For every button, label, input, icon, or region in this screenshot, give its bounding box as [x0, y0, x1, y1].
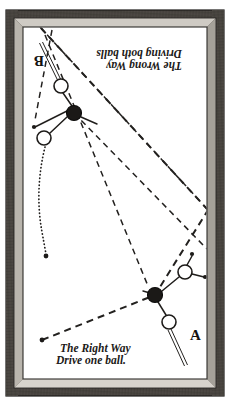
label-b: B	[34, 53, 44, 69]
diagram-canvas: A B The Right Way Drive one ball. The Wr…	[0, 0, 230, 405]
endpoint-b-red-left	[32, 125, 36, 129]
cloth-area	[23, 27, 207, 379]
ball-b-cue	[54, 79, 68, 93]
endpoint-aim-lower-left	[40, 338, 45, 343]
ball-a-cue	[162, 315, 176, 329]
frame-bevel-left	[14, 18, 23, 388]
frame-bevel-bottom	[14, 379, 216, 388]
frame-bevel-right	[207, 18, 216, 388]
caption-top: The Wrong Way Driving both balls	[96, 47, 183, 72]
frame-bevel-top	[14, 18, 216, 27]
ball-a-red	[148, 288, 163, 303]
caption-bottom-line2: Drive one ball.	[55, 354, 126, 366]
ball-a-object	[178, 265, 192, 279]
ball-b-object	[37, 131, 51, 145]
endpoint-a-object-up	[190, 252, 194, 256]
label-a: A	[190, 327, 201, 343]
ball-b-red	[67, 106, 82, 121]
billiards-diagram-figure: A B The Right Way Drive one ball. The Wr…	[0, 0, 230, 405]
table-surface	[23, 27, 207, 379]
caption-top-line2: Driving both balls	[96, 47, 183, 60]
caption-bottom: The Right Way Drive one ball.	[55, 342, 131, 366]
endpoint-dotted-path	[44, 254, 49, 259]
